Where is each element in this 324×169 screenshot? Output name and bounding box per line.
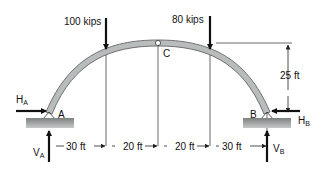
span-2-label: 20 ft: [123, 141, 143, 152]
hb-label: HB: [298, 115, 310, 127]
vb-label: VB: [273, 143, 285, 155]
rise-label: 25 ft: [280, 70, 300, 81]
crown-hinge-icon: [155, 40, 160, 45]
support-a-label: A: [58, 109, 65, 120]
span-3-label: 20 ft: [175, 141, 195, 152]
hinge-c-label: C: [163, 48, 170, 59]
support-a: [26, 112, 74, 128]
three-hinged-arch-diagram: C A B 100 kips 80 kips 25 ft HA HB VA VB…: [0, 0, 324, 169]
ha-label: HA: [16, 94, 28, 106]
load-100-label: 100 kips: [64, 16, 101, 27]
span-4-label: 30 ft: [222, 141, 242, 152]
support-b-label: B: [250, 109, 257, 120]
span-1-label: 30 ft: [66, 141, 86, 152]
reference-lines: [106, 44, 267, 146]
va-label: VA: [33, 147, 45, 159]
load-80-label: 80 kips: [172, 14, 204, 25]
